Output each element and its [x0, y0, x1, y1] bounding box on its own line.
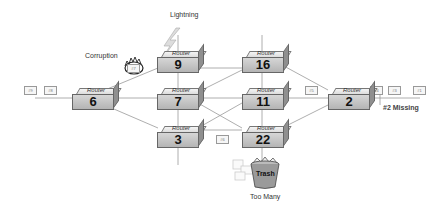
router-number: 7 [157, 94, 199, 109]
router-label: Router [161, 50, 201, 56]
router-number: 6 [72, 94, 114, 109]
missing-label: #2 Missing [383, 104, 419, 111]
packet-5: #5 [305, 86, 318, 95]
too-many-label: Too Many [250, 193, 280, 200]
router-label: Router [161, 125, 201, 131]
router-16[interactable]: Router 16 [242, 51, 288, 71]
router-6[interactable]: Router 6 [72, 88, 118, 108]
router-label: Router [76, 87, 116, 93]
router-9[interactable]: Router 9 [157, 51, 203, 71]
lightning-label: Lightning [170, 11, 198, 18]
packet-9: #9 [24, 86, 37, 95]
router-3[interactable]: Router 3 [157, 126, 203, 146]
packet-7: #7 [127, 64, 140, 73]
router-label: Router [246, 125, 286, 131]
packet-6: #6 [216, 135, 229, 144]
router-number: 3 [157, 132, 199, 147]
network-links [0, 0, 447, 211]
router-22[interactable]: Router 22 [242, 126, 288, 146]
packet-8: #8 [44, 86, 57, 95]
packet-1: #1 [413, 86, 426, 95]
router-number: 2 [328, 94, 370, 109]
router-number: 16 [242, 57, 284, 72]
router-label: Router [161, 87, 201, 93]
packet-3: #3 [388, 86, 401, 95]
trash-can-icon: Trash [247, 157, 283, 189]
router-number: 9 [157, 57, 199, 72]
router-label: Router [332, 87, 372, 93]
trash-label: Trash [256, 170, 275, 177]
router-7[interactable]: Router 7 [157, 88, 203, 108]
router-number: 11 [242, 94, 284, 109]
router-label: Router [246, 50, 286, 56]
router-11[interactable]: Router 11 [242, 88, 288, 108]
router-label: Router [246, 87, 286, 93]
router-2[interactable]: Router 2 [328, 88, 374, 108]
router-number: 22 [242, 132, 284, 147]
corruption-label: Corruption [85, 52, 118, 59]
